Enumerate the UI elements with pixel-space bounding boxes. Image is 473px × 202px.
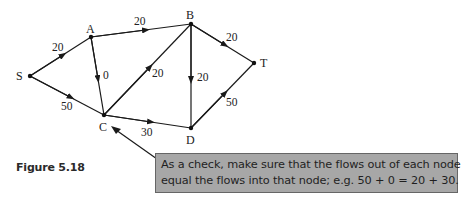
node-label-d: D (186, 133, 195, 147)
callout-box: As a check, make sure that the flows out… (155, 153, 458, 193)
flow-label-b-t: 20 (226, 31, 238, 43)
node-label-a: A (86, 22, 95, 36)
callout-text-line1: As a check, make sure that the flows out… (161, 157, 457, 173)
flow-label-c-b: 20 (152, 67, 164, 79)
flow-label-s-c: 50 (61, 100, 73, 112)
node-c (102, 113, 106, 117)
node-t (252, 61, 256, 65)
flow-label-b-d: 20 (197, 71, 209, 83)
callout-text-line2: equal the flows into that node; e.g. 50 … (161, 173, 457, 189)
flow-label-c-d: 30 (141, 126, 153, 138)
node-s (28, 74, 32, 78)
node-label-s: S (16, 69, 23, 83)
node-b (189, 22, 193, 26)
flow-label-a-b: 20 (134, 15, 146, 27)
node-label-t: T (260, 56, 268, 70)
figure-caption: Figure 5.18 (16, 161, 85, 174)
flow-label-d-t: 50 (226, 96, 238, 108)
node-d (189, 126, 193, 130)
node-label-c: C (99, 120, 107, 134)
flow-label-a-c: 0 (103, 69, 109, 81)
flow-label-s-a: 20 (52, 41, 64, 53)
node-label-b: B (186, 8, 194, 22)
